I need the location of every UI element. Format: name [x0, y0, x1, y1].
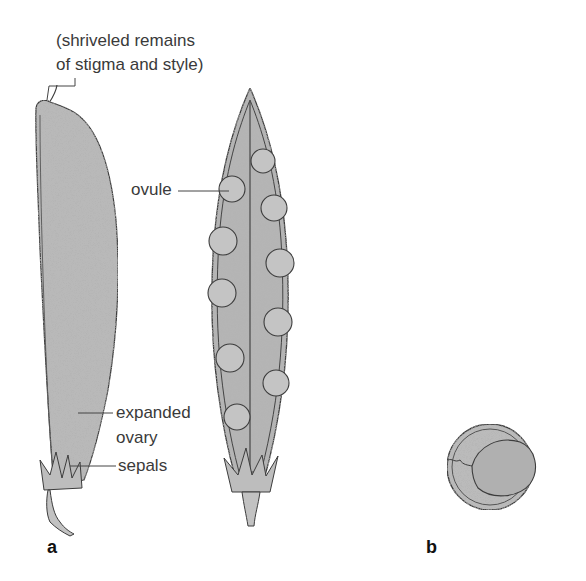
label-ovary: ovary	[116, 428, 158, 448]
ovule	[266, 249, 294, 277]
label-stigma-remains-line2: of stigma and style)	[56, 55, 203, 75]
stalk	[242, 492, 260, 526]
label-sepals: sepals	[118, 456, 167, 476]
ovule	[263, 370, 289, 396]
panel-letter-b: b	[426, 537, 437, 558]
ovule	[224, 404, 250, 430]
label-stigma-remains-line1: (shriveled remains	[56, 31, 195, 51]
ovule	[251, 149, 275, 173]
label-expanded: expanded	[116, 403, 191, 423]
pea-pod-figure: (shriveled remains of stigma and style) …	[0, 0, 586, 581]
stigma-leader	[47, 78, 75, 100]
seed-cross-section	[447, 424, 535, 510]
style-remnant	[49, 85, 57, 103]
ovule	[264, 308, 292, 336]
panel-letter-a: a	[47, 537, 57, 558]
opened-pod	[208, 88, 294, 526]
label-ovule: ovule	[131, 180, 172, 200]
whole-pod	[36, 85, 118, 536]
ovule	[208, 279, 236, 307]
ovule	[216, 344, 244, 372]
ovule	[219, 176, 245, 202]
ovule	[261, 195, 287, 221]
stalk	[47, 490, 74, 536]
illustration	[0, 0, 586, 581]
ovule	[209, 227, 237, 255]
pod-wall	[36, 100, 118, 484]
